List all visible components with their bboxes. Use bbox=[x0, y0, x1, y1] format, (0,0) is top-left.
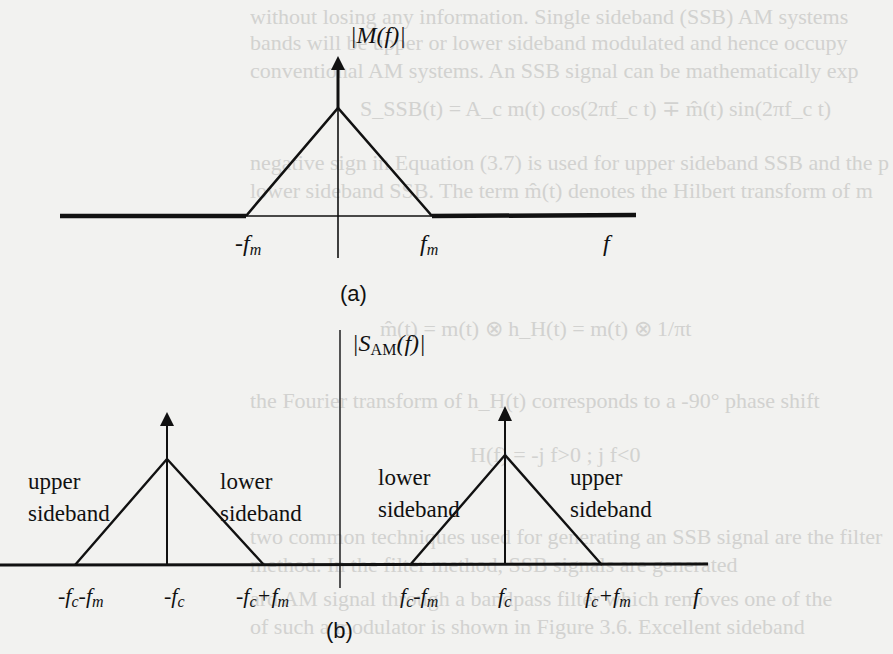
left-upper-sideband-label: upper sideband bbox=[28, 466, 110, 530]
figure-b-tick-neg-fc-minus-fm: -fc-fm bbox=[58, 583, 104, 611]
figure-b-caption: (b) bbox=[326, 618, 353, 644]
figure-a-x-label: f bbox=[603, 230, 610, 257]
right-upper-sideband-label: upper sideband bbox=[570, 462, 652, 526]
figure-a-arrow-icon bbox=[331, 56, 345, 70]
figure-b-y-label: |SAM(f)| bbox=[352, 330, 426, 359]
right-lower-sideband-label: lower sideband bbox=[378, 462, 460, 526]
figure-b-tick-neg-fc: -fc bbox=[164, 583, 185, 611]
figure-b-tick-fc-plus-fm: fc+fm bbox=[585, 583, 631, 611]
figure-b-tick-fc-minus-fm: fc-fm bbox=[400, 583, 438, 611]
figure-a-tick-neg-fm: -fm bbox=[235, 230, 261, 259]
left-lower-sideband-label: lower sideband bbox=[220, 466, 302, 530]
figure-b-x-label: f bbox=[693, 583, 700, 610]
figure-b-tick-neg-fc-plus-fm: -fc+fm bbox=[236, 583, 289, 611]
figure-a bbox=[60, 56, 636, 258]
figure-a-y-label: |M(f)| bbox=[350, 22, 406, 49]
figure-a-spectrum-triangle bbox=[246, 108, 432, 216]
figure-a-tick-fm: fm bbox=[420, 230, 438, 259]
tick-label: fm bbox=[420, 230, 438, 256]
figure-a-caption: (a) bbox=[340, 281, 367, 307]
y-label-main: |S bbox=[352, 330, 371, 356]
y-label-tail: (f)| bbox=[396, 330, 425, 356]
figure-b bbox=[0, 330, 708, 588]
figure-b-right-carrier-arrow-icon bbox=[498, 406, 512, 421]
tick-label: -fm bbox=[235, 230, 261, 256]
figure-b-left-carrier-arrow-icon bbox=[160, 412, 174, 426]
y-label-sub: AM bbox=[371, 341, 397, 358]
figure-b-tick-fc: fc bbox=[498, 583, 511, 611]
